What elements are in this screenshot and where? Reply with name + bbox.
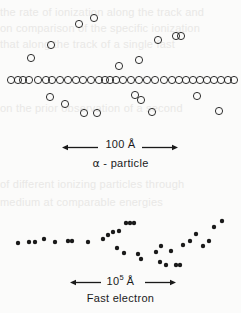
alpha-core-ion-marker <box>175 76 182 83</box>
alpha-core-ion-marker <box>189 76 196 83</box>
alpha-delta-ray-marker <box>137 96 144 103</box>
electron-ion-cluster-marker <box>16 241 20 245</box>
electron-ion-cluster-marker <box>174 263 178 267</box>
electron-ion-cluster-marker <box>132 221 136 225</box>
fast-electron-track-panel <box>0 205 241 275</box>
electron-ion-cluster-marker <box>101 237 105 241</box>
alpha-core-ion-marker <box>127 76 134 83</box>
alpha-scale-label: 100Å <box>0 138 241 151</box>
alpha-core-ion-marker <box>64 76 71 83</box>
electron-ion-cluster-marker <box>181 243 185 247</box>
electron-ion-cluster-marker <box>207 239 211 243</box>
electron-ion-cluster-marker <box>111 230 115 234</box>
alpha-delta-ray-marker <box>131 91 138 98</box>
alpha-scale-bar-group: 100Å α - particle <box>0 140 241 170</box>
alpha-core-ion-marker <box>196 76 203 83</box>
alpha-caption-dash: - <box>100 157 111 169</box>
electron-ion-cluster-marker <box>136 252 140 256</box>
electron-ion-cluster-marker <box>53 240 57 244</box>
electron-ion-cluster-marker <box>194 232 198 236</box>
alpha-delta-ray-marker <box>193 92 200 99</box>
alpha-delta-ray-marker <box>135 56 142 63</box>
bleed-text-line-5: of different ionizing particles through <box>0 178 241 190</box>
electron-ion-cluster-marker <box>33 240 37 244</box>
ionization-track-figure: the rate of ionization along the track a… <box>0 0 241 313</box>
alpha-delta-ray-marker <box>47 41 54 48</box>
alpha-delta-ray-marker <box>177 32 184 39</box>
alpha-particle-caption: α - particle <box>0 157 241 170</box>
alpha-core-ion-marker <box>168 76 175 83</box>
electron-ion-cluster-marker <box>220 219 224 223</box>
alpha-core-ion-marker <box>217 76 224 83</box>
electron-ion-cluster-marker <box>86 240 90 244</box>
electron-scale-unit: Å <box>127 275 135 288</box>
electron-scale-label: 105Å <box>0 273 241 288</box>
alpha-scale-bar-row: 100Å <box>0 140 241 155</box>
alpha-delta-ray-marker <box>93 109 100 116</box>
alpha-core-ion-marker <box>34 76 41 83</box>
electron-ion-cluster-marker <box>164 263 168 267</box>
alpha-core-ion-marker <box>7 76 14 83</box>
alpha-delta-ray-marker <box>27 54 34 61</box>
alpha-delta-ray-marker <box>80 109 87 116</box>
electron-scale-value: 10 <box>107 275 120 287</box>
electron-ion-cluster-marker <box>42 237 46 241</box>
alpha-delta-ray-marker <box>46 93 53 100</box>
alpha-scale-value: 100 <box>105 138 124 150</box>
electron-ion-cluster-marker <box>169 249 173 253</box>
alpha-delta-ray-marker <box>215 107 222 114</box>
alpha-core-ion-marker <box>210 76 217 83</box>
electron-ion-cluster-marker <box>212 225 216 229</box>
alpha-scale-unit: Å <box>128 138 136 151</box>
electron-ion-cluster-marker <box>159 244 163 248</box>
alpha-particle-track-panel <box>0 0 241 135</box>
electron-ion-cluster-marker <box>27 240 31 244</box>
electron-ion-cluster-marker <box>188 239 192 243</box>
fast-electron-caption: Fast electron <box>0 292 241 304</box>
electron-ion-cluster-marker <box>117 229 121 233</box>
alpha-core-ion-marker <box>119 76 126 83</box>
electron-ion-cluster-marker <box>154 250 158 254</box>
alpha-delta-ray-marker <box>90 14 97 21</box>
fast-electron-track-plot <box>0 205 241 275</box>
alpha-core-ion-marker <box>182 76 189 83</box>
alpha-core-ion-marker <box>151 76 158 83</box>
alpha-delta-ray-marker <box>115 62 122 69</box>
electron-ion-cluster-marker <box>139 257 143 261</box>
electron-scale-bar-group: 105Å Fast electron <box>0 275 241 304</box>
alpha-core-ion-marker <box>143 76 150 83</box>
electron-ion-cluster-marker <box>106 233 110 237</box>
alpha-delta-ray-marker <box>61 100 68 107</box>
alpha-particle-track-plot <box>0 0 241 135</box>
alpha-delta-ray-marker <box>154 36 161 43</box>
electron-ion-cluster-marker <box>122 251 126 255</box>
alpha-delta-ray-marker <box>75 20 82 27</box>
alpha-core-ion-marker <box>56 76 63 83</box>
electron-ion-cluster-marker <box>66 239 70 243</box>
electron-ion-cluster-marker <box>178 263 182 267</box>
alpha-caption-word: particle <box>111 157 149 169</box>
electron-ion-cluster-marker <box>128 221 132 225</box>
alpha-core-ion-marker <box>72 76 79 83</box>
electron-ion-cluster-marker <box>115 246 119 250</box>
electron-ion-cluster-marker <box>70 239 74 243</box>
alpha-symbol: α <box>92 157 100 170</box>
alpha-core-ion-marker <box>135 76 142 83</box>
alpha-delta-ray-marker <box>148 108 155 115</box>
alpha-core-ion-marker <box>87 76 94 83</box>
electron-scale-exponent: 5 <box>119 273 123 282</box>
electron-ion-cluster-marker <box>124 221 128 225</box>
electron-ion-cluster-marker <box>201 244 205 248</box>
alpha-core-ion-marker <box>160 76 167 83</box>
electron-ion-cluster-marker <box>158 260 162 264</box>
electron-scale-bar-row: 105Å <box>0 275 241 290</box>
alpha-core-ion-marker <box>79 76 86 83</box>
alpha-core-ion-marker <box>203 76 210 83</box>
